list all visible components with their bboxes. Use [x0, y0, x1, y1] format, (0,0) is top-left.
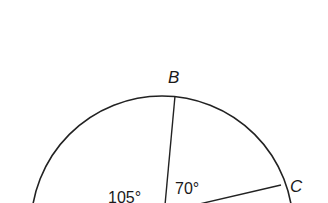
radius-to-C [195, 185, 281, 203]
point-label-C: C [290, 177, 303, 196]
angle-label-105: 105° [108, 189, 141, 203]
radius-to-B [165, 96, 175, 203]
angle-label-70: 70° [175, 180, 199, 197]
point-label-B: B [168, 68, 179, 87]
circle-diagram: B C 105° 70° [0, 0, 328, 203]
circle-outline [31, 96, 293, 203]
